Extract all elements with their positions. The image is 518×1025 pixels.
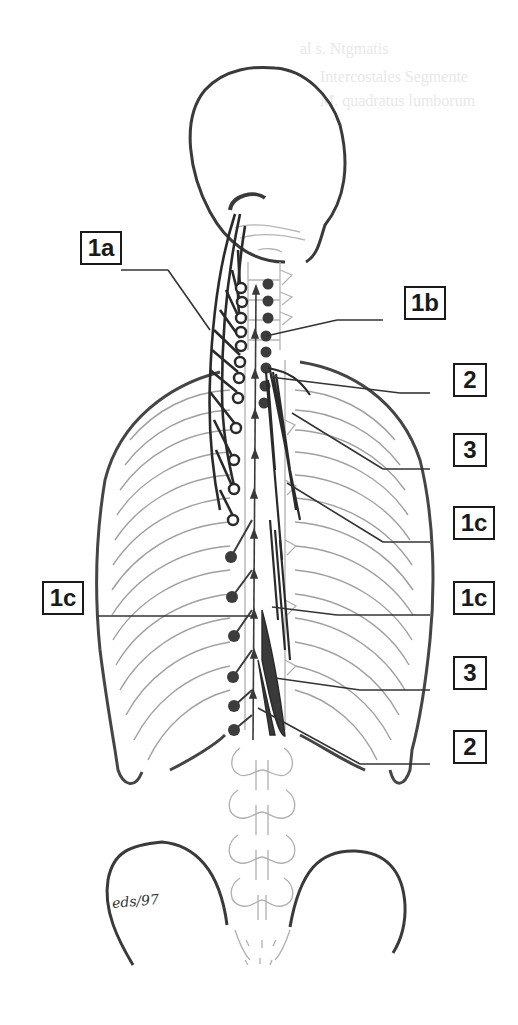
- open-ganglia-1a: [228, 283, 247, 525]
- label-1b: 1b: [404, 286, 446, 320]
- label-2: 2: [453, 363, 487, 397]
- rib-cage-outline: [97, 362, 433, 784]
- ganglia-connectors: [231, 520, 252, 730]
- label-1c-left: 1c: [42, 581, 84, 615]
- muscle-bundles-lower: [258, 610, 285, 736]
- sympathetic-chain: [250, 286, 259, 740]
- skull: [190, 67, 345, 262]
- filled-ganglia-1c: [225, 551, 240, 736]
- label-1a: 1a: [80, 231, 122, 265]
- filled-ganglia-1b: [259, 279, 274, 409]
- label-1c-lower: 1c: [453, 581, 495, 615]
- label-3: 3: [453, 433, 487, 467]
- label-1c-upper: 1c: [453, 506, 495, 540]
- label-3-lower: 3: [453, 656, 487, 690]
- spine-anatomy-illustration: [0, 0, 518, 1025]
- label-2-lower: 2: [453, 730, 487, 764]
- muscle-bundles-right: [266, 368, 310, 660]
- ribs-right: [295, 390, 413, 760]
